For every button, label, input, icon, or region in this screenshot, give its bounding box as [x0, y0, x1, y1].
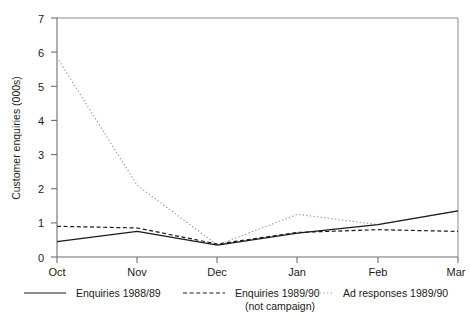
series-line-enquiries-1989-90: [57, 226, 458, 244]
x-tick-label-jan: Jan: [288, 266, 306, 278]
x-tick-label-oct: Oct: [48, 266, 65, 278]
y-tick-label-5: 5: [38, 81, 44, 93]
legend-label-enquiries-1988-89: Enquiries 1988/89: [76, 287, 161, 299]
y-tick-label-0: 0: [38, 252, 44, 264]
x-tick-label-nov: Nov: [127, 266, 147, 278]
y-tick-label-3: 3: [38, 149, 44, 161]
y-tick-label-4: 4: [38, 115, 44, 127]
x-tick-label-dec: Dec: [207, 266, 227, 278]
x-tick-label-feb: Feb: [369, 266, 388, 278]
y-tick-label-1: 1: [38, 217, 44, 229]
x-tick-label-mar: Mar: [447, 266, 466, 278]
chart-legend: Enquiries 1988/89 Enquiries 1989/90 (not…: [24, 287, 448, 312]
series-line-ad-responses-1989-90: [57, 57, 458, 245]
y-axis-ticks: [51, 18, 57, 257]
chart-figure: 7 6 5 4 3 2 1 0 Customer enquiries (000s…: [0, 0, 470, 321]
legend-label-enquiries-1989-90: Enquiries 1989/90: [235, 287, 320, 299]
x-axis-ticks: [57, 257, 458, 263]
y-tick-label-6: 6: [38, 47, 44, 59]
y-tick-label-7: 7: [38, 13, 44, 25]
y-tick-label-2: 2: [38, 183, 44, 195]
legend-label-enquiries-1989-90-sub: (not campaign): [245, 300, 315, 312]
line-chart-svg: 7 6 5 4 3 2 1 0 Customer enquiries (000s…: [0, 0, 470, 321]
y-axis-title: Customer enquiries (000s): [10, 76, 22, 200]
legend-label-ad-responses-1989-90: Ad responses 1989/90: [343, 287, 448, 299]
